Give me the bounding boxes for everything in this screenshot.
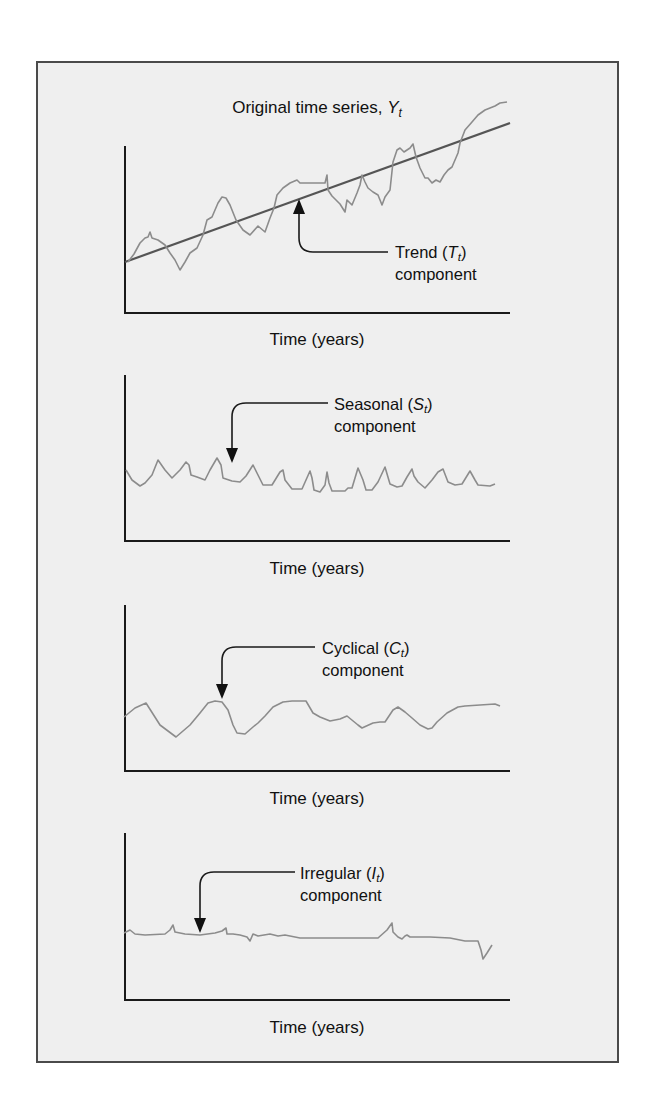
series-seasonal [126, 458, 495, 492]
callout-arrow-seasonal [232, 403, 328, 450]
axes-seasonal [125, 375, 510, 541]
annotation-cyclical: Cyclical (Ct) [322, 639, 410, 659]
annotation-seasonal: Seasonal (St) [334, 395, 433, 415]
axes-cyclical [125, 605, 510, 771]
callout-arrow-trend [299, 212, 388, 252]
panel-cyclical: Cyclical (Ct) component Time (years) [124, 605, 510, 808]
annotation-trend: Trend (Tt) [395, 243, 466, 263]
callout-arrow-cyclical [222, 647, 315, 686]
x-axis-label-seasonal: Time (years) [270, 559, 365, 578]
annotation-irregular-line2: component [300, 886, 382, 904]
panel-original: Original time series, Yt Trend (Tt) comp… [125, 98, 510, 349]
arrowhead-down-icon [226, 448, 238, 463]
axes-original [125, 146, 510, 313]
annotation-trend-line2: component [395, 265, 477, 283]
annotation-seasonal-line2: component [334, 417, 416, 435]
arrowhead-down-icon [216, 684, 228, 699]
trend-line [125, 123, 510, 262]
series-irregular [124, 923, 492, 959]
annotation-irregular: Irregular (It) [300, 864, 385, 884]
arrowhead-down-icon [194, 918, 206, 933]
x-axis-label-cyclical: Time (years) [270, 789, 365, 808]
annotation-cyclical-line2: component [322, 661, 404, 679]
callout-arrow-irregular [200, 872, 295, 920]
panel-title-original: Original time series, Yt [232, 98, 402, 120]
axes-irregular [125, 833, 510, 1000]
series-cyclical [124, 701, 500, 737]
panel-irregular: Irregular (It) component Time (years) [124, 833, 510, 1037]
x-axis-label-original: Time (years) [270, 330, 365, 349]
panel-seasonal: Seasonal (St) component Time (years) [125, 375, 510, 578]
time-series-components-figure: Original time series, Yt Trend (Tt) comp… [0, 0, 653, 1115]
x-axis-label-irregular: Time (years) [270, 1018, 365, 1037]
